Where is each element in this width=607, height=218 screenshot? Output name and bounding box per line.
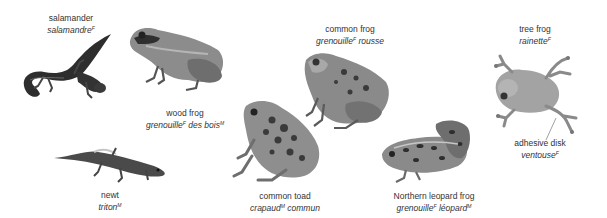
label-adhesive-disk: adhesive disk ventouseF [500, 138, 580, 160]
wood-frog-english-name: wood frog [130, 108, 240, 118]
amphibians-illustration: salamander salamandreF wood frog grenoui… [0, 0, 607, 218]
label-wood-frog: wood frog grenouilleF des boisM [130, 108, 240, 130]
common-frog-french-name: grenouilleF rousse [300, 34, 400, 46]
adhesive-disk-french-name: ventouseF [500, 148, 580, 160]
salamander-french-name: salamandreF [36, 23, 106, 35]
label-northern-leopard-frog: Northern leopard frog grenouilleF léopar… [384, 191, 484, 213]
salamander-english-name: salamander [36, 13, 106, 23]
newt-english-name: newt [80, 190, 140, 200]
common-toad-french-name: crapaudM commun [240, 201, 330, 213]
northern-leopard-frog-french-name: grenouilleF léopardM [384, 201, 484, 213]
northern-leopard-frog-english-name: Northern leopard frog [384, 191, 484, 201]
adhesive-disk-english-name: adhesive disk [500, 138, 580, 148]
tree-frog-english-name: tree frog [500, 24, 570, 34]
common-frog-english-name: common frog [300, 24, 400, 34]
tree-frog-illustration [490, 52, 582, 136]
common-toad-english-name: common toad [240, 191, 330, 201]
label-salamander: salamander salamandreF [36, 13, 106, 35]
label-tree-frog: tree frog rainetteF [500, 24, 570, 46]
salamander-illustration [14, 30, 119, 102]
label-common-frog: common frog grenouilleF rousse [300, 24, 400, 46]
wood-frog-french-name: grenouilleF des boisM [130, 118, 240, 130]
label-common-toad: common toad crapaudM commun [240, 191, 330, 213]
common-toad-illustration [232, 96, 330, 184]
label-newt: newt tritonM [80, 190, 140, 212]
newt-illustration [54, 142, 170, 184]
tree-frog-french-name: rainetteF [500, 34, 570, 46]
northern-leopard-frog-illustration [376, 114, 474, 184]
newt-french-name: tritonM [80, 200, 140, 212]
wood-frog-illustration [128, 22, 228, 92]
